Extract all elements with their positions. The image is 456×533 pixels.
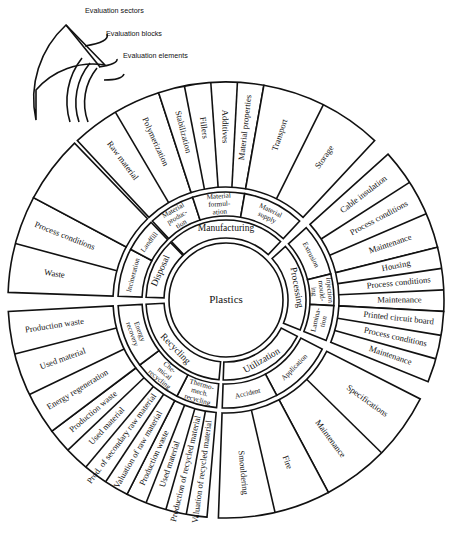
legend-arrow-sectors xyxy=(85,34,107,46)
legend-elements-label: Evaluation elements xyxy=(123,51,188,60)
element-label: Additives xyxy=(220,110,230,144)
legend-arrow-elements xyxy=(104,74,124,80)
legend-blocks-label: Evaluation blocks xyxy=(106,29,162,38)
plastics-lifecycle-diagram: Evaluation sectors Evaluation blocks Eva… xyxy=(0,0,456,533)
center-label: Plastics xyxy=(209,293,243,305)
sector-label-manufacturing: Manufacturing xyxy=(198,223,255,233)
wheel: PlasticsManufacturingMaterialproduc-tion… xyxy=(8,82,444,524)
legend-sectors-label: Evaluation sectors xyxy=(85,6,144,15)
legend-arrow-blocks xyxy=(99,59,117,67)
element-label: Maintenance xyxy=(377,294,422,304)
